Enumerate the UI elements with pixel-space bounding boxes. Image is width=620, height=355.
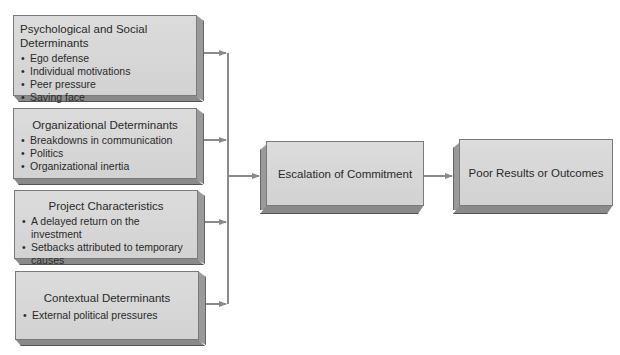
list-item: External political pressures [22, 309, 192, 322]
box-title: Psychological and Social Determinants [20, 22, 190, 50]
list-item: Breakdowns in communication [20, 134, 190, 147]
escalation-of-commitment-box: Escalation of Commitment [260, 141, 426, 215]
list-item: Organizational inertia [20, 160, 190, 173]
box-title: Contextual Determinants [22, 291, 192, 305]
list-item: Saving face [20, 91, 190, 104]
list-item: Peer pressure [20, 78, 190, 91]
escalation-label: Escalation of Commitment [267, 168, 423, 180]
list-item: A delayed return on the investment [21, 215, 191, 241]
box-title: Project Characteristics [21, 199, 191, 213]
poor-results-box: Poor Results or Outcomes [453, 139, 615, 215]
box-title: Organizational Determinants [20, 118, 190, 132]
list-item: Setbacks attributed to temporary causes [21, 241, 191, 267]
list-item: Individual motivations [20, 65, 190, 78]
project-characteristics-box: Project Characteristics A delayed return… [14, 190, 202, 264]
contextual-determinants-box: Contextual Determinants External politic… [15, 271, 203, 345]
list-item: Ego defense [20, 52, 190, 65]
list-item: Politics [20, 147, 190, 160]
organizational-determinants-box: Organizational Determinants Breakdowns i… [13, 108, 201, 184]
psychological-determinants-box: Psychological and Social Determinants Eg… [13, 15, 201, 101]
outcome-label: Poor Results or Outcomes [460, 167, 612, 179]
